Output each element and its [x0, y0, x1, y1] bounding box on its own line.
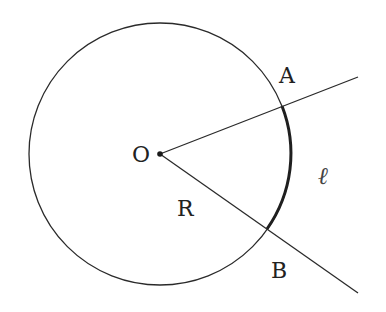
arc-AB	[267, 106, 291, 229]
label-point-A: A	[278, 63, 296, 88]
ray-OB	[160, 154, 358, 293]
center-point	[157, 151, 163, 157]
ray-OA	[160, 77, 358, 154]
label-point-B: B	[271, 258, 287, 283]
label-radius-R: R	[177, 196, 195, 221]
label-arc-length: ℓ	[318, 162, 328, 190]
diagram-canvas: O A B R ℓ	[0, 0, 386, 312]
label-center-O: O	[132, 142, 150, 167]
circle-sector-diagram: O A B R ℓ	[0, 0, 386, 312]
